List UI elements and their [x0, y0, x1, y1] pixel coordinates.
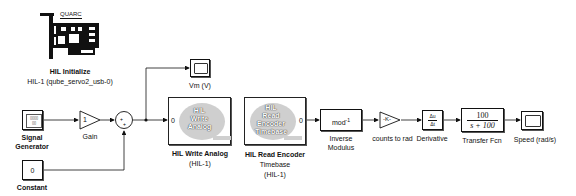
derivative-den: Δt [423, 121, 442, 127]
hil-write-icon-text-2: Write [169, 115, 230, 123]
derivative-block[interactable]: Δu Δt [422, 110, 443, 130]
hil-write-analog-label-1: HIL Write Analog [160, 149, 240, 158]
hil-initialize-subtitle: HIL-1 (qube_servo2_usb-0) [10, 77, 130, 86]
hil-initialize-title: HIL Initialize [30, 67, 110, 76]
inverse-modulus-label-2: Modulus [321, 143, 361, 152]
quarc-brand-label: QUARC [60, 11, 82, 19]
counts-to-rad-label: counts to rad [370, 134, 415, 143]
hil-write-input-port: 0 [171, 117, 175, 124]
constant-value: 0 [23, 166, 42, 175]
derivative-num: Δu [423, 113, 442, 119]
transfer-fcn-den: s + 100 [462, 121, 503, 130]
gain-label: Gain [75, 132, 105, 141]
hil-read-output-port: 0 [299, 117, 303, 124]
transfer-fcn-label: Transfer Fcn [457, 136, 507, 145]
hil-read-icon-text-2: Read [237, 112, 305, 120]
hil-read-icon-text-1: HIL [237, 104, 305, 112]
hil-write-icon-text-3: Analog [169, 123, 230, 131]
hil-write-analog-label-2: (HIL-1) [160, 159, 240, 168]
hil-write-analog-block[interactable]: HIL Write Analog 0 [168, 97, 231, 145]
speed-scope-block[interactable] [521, 111, 543, 130]
transfer-fcn-num: 100 [462, 111, 503, 120]
sum-block[interactable]: + + [114, 110, 134, 131]
hil-read-encoder-label-3: (HIL-1) [235, 170, 315, 179]
counts-to-rad-value: -K- [380, 115, 394, 124]
constant-block[interactable]: 0 [22, 160, 43, 180]
svg-text:+: + [123, 121, 126, 127]
gain-value: 1 [81, 115, 89, 124]
signal-generator-block[interactable]: ▯▯▯▯▯▯ [22, 110, 43, 130]
signal-generator-label-1: Signal [12, 133, 52, 142]
constant-label: Constant [12, 183, 52, 192]
scope-screen-icon [525, 115, 541, 127]
hil-initialize-block[interactable]: QUARC [36, 10, 106, 60]
signal-generator-label-2: Generator [12, 142, 52, 151]
derivative-label: Derivative [412, 134, 452, 143]
hil-read-encoder-label-2: Timebase [235, 160, 315, 169]
speed-scope-label: Speed (rad/s) [510, 135, 560, 144]
signal-generator-icon: ▯▯▯▯▯▯ [26, 114, 42, 128]
inverse-modulus-icon-text: mod-1 [321, 116, 361, 127]
hil-read-encoder-block[interactable]: HIL Read Encoder Timebase 0 [244, 97, 306, 145]
vm-scope-block[interactable] [190, 59, 210, 77]
hil-read-icon-text-3: Encoder [237, 120, 305, 128]
hil-read-encoder-label-1: HIL Read Encoder [235, 150, 315, 159]
hil-read-icon-text-4: Timebase [237, 128, 305, 136]
inverse-modulus-block[interactable]: mod-1 [320, 109, 362, 131]
vm-scope-label: Vm (V) [180, 81, 220, 90]
transfer-fcn-block[interactable]: 100 s + 100 [461, 108, 504, 132]
inverse-modulus-label-1: Inverse [321, 134, 361, 143]
hil-write-icon-text-1: HIL [169, 107, 230, 115]
scope-screen-icon [194, 63, 208, 74]
